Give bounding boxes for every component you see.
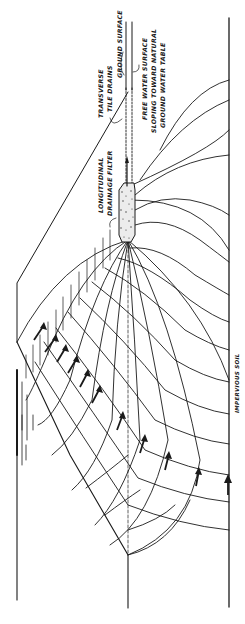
impervious-soil-label: IMPERVIOUS SOIL xyxy=(234,353,240,413)
flow-arrows xyxy=(34,322,232,495)
free-water-label-3: GROUND WATER TABLE xyxy=(159,42,166,128)
free-water-label-2: SLOPING TOWARD NATURAL xyxy=(150,29,157,133)
water-level-marks xyxy=(17,370,33,465)
ground-surface-lines xyxy=(126,22,132,90)
filter-label-2: DRAINAGE FILTER xyxy=(106,150,113,216)
surface-hatch-marks xyxy=(26,230,110,378)
diagram-canvas: GROUND SURFACE TRANSVERSE TILE DRAINS FR… xyxy=(0,0,245,624)
filter-label-1: LONGITUDINAL xyxy=(97,157,104,213)
ground-surface-label: GROUND SURFACE xyxy=(116,10,123,78)
free-water-label-1: FREE WATER SURFACE xyxy=(141,37,148,120)
flow-net-diagram: GROUND SURFACE TRANSVERSE TILE DRAINS FR… xyxy=(0,0,245,624)
transverse-label-1: TRANSVERSE xyxy=(97,69,104,118)
transverse-label-2: TILE DRAINS xyxy=(106,65,113,112)
drainage-filter-block xyxy=(119,156,135,242)
